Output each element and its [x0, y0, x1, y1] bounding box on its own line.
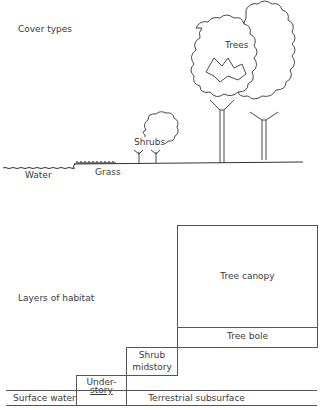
surface-water-label: Surface water [13, 393, 76, 403]
tree-canopy-label: Tree canopy [178, 271, 317, 281]
bottom-line [6, 405, 317, 406]
trees-icon [191, 1, 295, 163]
ground-line [6, 390, 317, 391]
trees-label: Trees [225, 40, 248, 50]
layers-of-habitat-title: Layers of habitat [18, 293, 94, 303]
grass-icon [76, 161, 116, 164]
shrub-midstory-layer: Shrub midstory [126, 347, 178, 376]
shrub-midstory-label-line1: Shrub [127, 350, 177, 360]
terrestrial-subsurface-label: Terrestrial subsurface [76, 393, 317, 403]
tree-canopy-layer: Tree canopy [177, 225, 318, 328]
shrubs-label: Shrubs [134, 137, 165, 147]
shrub-midstory-label-line2: midstory [127, 362, 177, 372]
grass-label: Grass [95, 167, 121, 177]
water-icon [3, 168, 75, 169]
water-label: Water [25, 170, 52, 180]
tree-bole-layer: Tree bole [177, 327, 318, 348]
tree-bole-label: Tree bole [178, 331, 317, 341]
